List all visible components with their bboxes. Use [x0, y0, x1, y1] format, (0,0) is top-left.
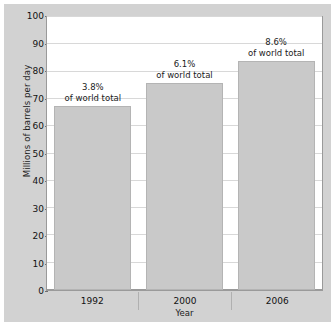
y-tick-label: 0 — [14, 286, 44, 296]
plot-area: 3.8%of world total6.1%of world total8.6%… — [46, 16, 323, 291]
bars-layer: 3.8%of world total6.1%of world total8.6%… — [47, 17, 322, 290]
y-tick-label: 50 — [14, 149, 44, 159]
y-tick-label: 40 — [14, 176, 44, 186]
chart-figure: Millions of barrels per day 010203040506… — [4, 4, 331, 322]
bar-annotation: 8.6%of world total — [218, 37, 335, 59]
bar-annotation-percent: 8.6% — [218, 37, 335, 48]
y-tick-label: 10 — [14, 259, 44, 269]
bar-group: 8.6%of world total — [230, 17, 322, 290]
y-tick-label: 80 — [14, 66, 44, 76]
bar[interactable] — [146, 83, 223, 290]
bar-annotation-percent: 6.1% — [126, 59, 243, 70]
bar-annotation-percent: 3.8% — [34, 82, 151, 93]
y-tick-label: 100 — [14, 11, 44, 21]
x-axis-title: Year — [46, 308, 323, 318]
bar[interactable] — [238, 61, 315, 290]
y-tick-label: 60 — [14, 121, 44, 131]
y-tick-label: 90 — [14, 39, 44, 49]
y-tick-label: 30 — [14, 204, 44, 214]
bar-annotation-subtext: of world total — [34, 93, 151, 104]
bar[interactable] — [54, 106, 131, 290]
bar-annotation-subtext: of world total — [126, 70, 243, 81]
y-tick-label: 20 — [14, 231, 44, 241]
bar-annotation: 6.1%of world total — [126, 59, 243, 81]
y-axis-tick-labels: 0102030405060708090100 — [14, 4, 44, 322]
bar-annotation-subtext: of world total — [218, 48, 335, 59]
bar-annotation: 3.8%of world total — [34, 82, 151, 104]
